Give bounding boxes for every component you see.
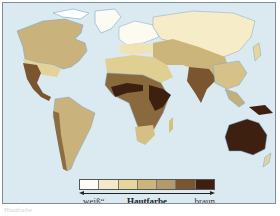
legend-color-scale <box>79 179 215 190</box>
region-japan <box>253 43 261 61</box>
legend-labels: „weiß“ Hautfarbe braun <box>79 196 215 204</box>
region-east-asia <box>213 61 247 89</box>
region-south-east-asia <box>225 89 245 107</box>
legend: „weiß“ Hautfarbe braun <box>79 179 215 204</box>
region-new-guinea <box>249 105 273 115</box>
region-new-zealand <box>263 153 271 167</box>
map-frame: „weiß“ Hautfarbe braun <box>2 2 276 204</box>
world-skin-color-map <box>3 3 276 204</box>
legend-swatch <box>80 180 99 189</box>
region-australia <box>225 119 267 155</box>
caption: Hautfarbe <box>4 206 32 214</box>
legend-label-right: braun <box>195 196 216 204</box>
region-greenland <box>95 9 121 33</box>
region-southern-africa <box>135 125 155 145</box>
legend-swatch <box>119 180 138 189</box>
region-madagascar <box>169 117 173 133</box>
region-arctic-islands <box>53 9 89 19</box>
legend-swatch <box>176 180 195 189</box>
legend-swatch <box>99 180 118 189</box>
legend-swatch <box>157 180 176 189</box>
legend-swatch <box>196 180 214 189</box>
legend-swatch <box>138 180 157 189</box>
